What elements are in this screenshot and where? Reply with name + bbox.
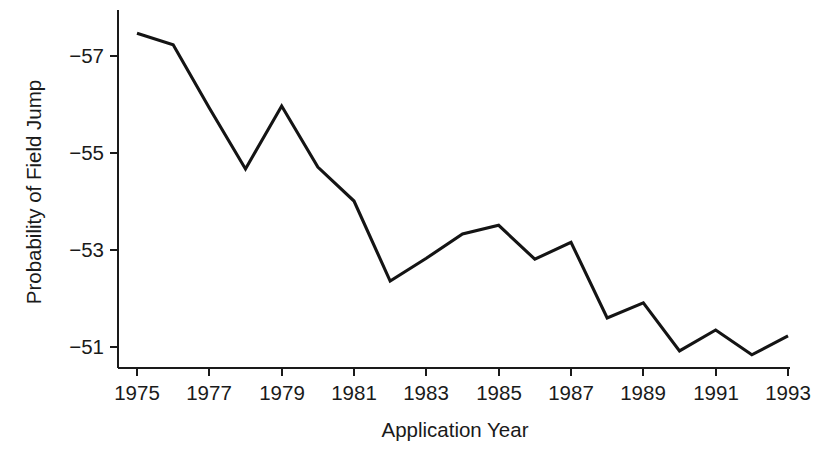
chart-figure: −57 −55 −53 −51 1975 1977 1979 1981 1983…	[0, 0, 818, 465]
y-axis-title: Probability of Field Jump	[22, 80, 45, 304]
x-tick-label: 1985	[476, 381, 522, 404]
x-tick-label: 1983	[403, 381, 449, 404]
y-tick-label: −51	[69, 335, 104, 358]
y-axis-ticks	[110, 56, 118, 347]
x-tick-label: 1993	[765, 381, 811, 404]
y-tick-label: −55	[69, 141, 104, 164]
x-axis-title: Application Year	[381, 418, 528, 441]
x-tick-label: 1981	[331, 381, 377, 404]
y-tick-label: −57	[69, 44, 104, 67]
x-axis-tick-labels: 1975 1977 1979 1981 1983 1985 1987 1989 …	[114, 381, 811, 404]
y-axis-tick-labels: −57 −55 −53 −51	[69, 44, 104, 358]
x-tick-label: 1975	[114, 381, 160, 404]
x-tick-label: 1987	[548, 381, 594, 404]
x-tick-label: 1991	[693, 381, 739, 404]
x-tick-label: 1977	[186, 381, 232, 404]
x-tick-label: 1979	[259, 381, 305, 404]
y-tick-label: −53	[69, 238, 104, 261]
data-series-line	[137, 33, 788, 355]
line-chart: −57 −55 −53 −51 1975 1977 1979 1981 1983…	[0, 0, 818, 465]
x-axis-ticks	[137, 368, 788, 376]
x-tick-label: 1989	[620, 381, 666, 404]
